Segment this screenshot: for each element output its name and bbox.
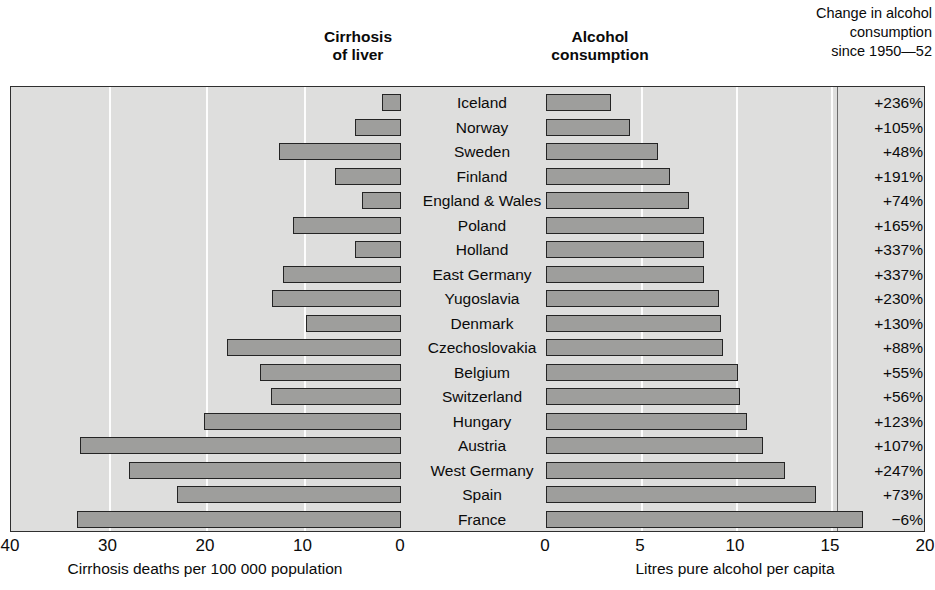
country-label: Hungary — [409, 410, 555, 435]
tick-label-right-15: 15 — [810, 536, 850, 556]
bar-cirrhosis — [306, 315, 401, 332]
bar-alcohol — [546, 168, 670, 185]
country-label: West Germany — [409, 459, 555, 484]
tick-label-left-30: 30 — [88, 536, 128, 556]
change-percent-label: +123% — [801, 410, 923, 435]
country-label: Iceland — [409, 91, 555, 116]
tick-label-right-0: 0 — [525, 536, 565, 556]
bar-cirrhosis — [177, 486, 401, 503]
chart-row: Austria+107% — [11, 434, 924, 459]
change-percent-label: +107% — [801, 434, 923, 459]
chart-row: Yugoslavia+230% — [11, 287, 924, 312]
country-label: Switzerland — [409, 385, 555, 410]
bar-alcohol — [546, 437, 763, 454]
change-percent-label: +73% — [801, 483, 923, 508]
tick-label-right-10: 10 — [715, 536, 755, 556]
bar-cirrhosis — [283, 266, 401, 283]
bar-cirrhosis — [335, 168, 401, 185]
country-label: Holland — [409, 238, 555, 263]
chart-row: Spain+73% — [11, 483, 924, 508]
bar-alcohol — [546, 388, 740, 405]
column-header-cirrhosis: Cirrhosis of liver — [278, 28, 438, 64]
country-label: Denmark — [409, 312, 555, 337]
bar-cirrhosis — [279, 143, 401, 160]
country-label: Sweden — [409, 140, 555, 165]
change-percent-label: +337% — [801, 263, 923, 288]
axis-title-right: Litres pure alcohol per capita — [545, 560, 925, 578]
change-percent-label: +105% — [801, 116, 923, 141]
country-label: Norway — [409, 116, 555, 141]
chart-row: England & Wales+74% — [11, 189, 924, 214]
bar-cirrhosis — [260, 364, 401, 381]
change-percent-label: +56% — [801, 385, 923, 410]
country-label: East Germany — [409, 263, 555, 288]
tick-label-left-20: 20 — [185, 536, 225, 556]
country-label: Spain — [409, 483, 555, 508]
country-label: Poland — [409, 214, 555, 239]
change-percent-label: +191% — [801, 165, 923, 190]
chart-row: East Germany+337% — [11, 263, 924, 288]
chart-row: Czechoslovakia+88% — [11, 336, 924, 361]
country-label: Austria — [409, 434, 555, 459]
chart-row: Belgium+55% — [11, 361, 924, 386]
chart-row: Iceland+236% — [11, 91, 924, 116]
change-percent-label: +74% — [801, 189, 923, 214]
column-header-alcohol: Alcohol consumption — [520, 28, 680, 64]
chart-row: Hungary+123% — [11, 410, 924, 435]
bar-cirrhosis — [227, 339, 401, 356]
bar-cirrhosis — [293, 217, 401, 234]
chart-row: Finland+191% — [11, 165, 924, 190]
bar-alcohol — [546, 217, 704, 234]
tick-label-left-0: 0 — [380, 536, 420, 556]
chart-row: Holland+337% — [11, 238, 924, 263]
bar-cirrhosis — [129, 462, 401, 479]
change-percent-label: +165% — [801, 214, 923, 239]
tick-label-left-10: 10 — [283, 536, 323, 556]
bar-cirrhosis — [382, 94, 402, 111]
chart-row: France−6% — [11, 508, 924, 533]
bar-alcohol — [546, 413, 747, 430]
bar-alcohol — [546, 119, 630, 136]
chart-row: Denmark+130% — [11, 312, 924, 337]
change-percent-label: +247% — [801, 459, 923, 484]
bar-alcohol — [546, 339, 723, 356]
bar-alcohol — [546, 94, 611, 111]
bar-alcohol — [546, 143, 658, 160]
country-label: England & Wales — [409, 189, 555, 214]
bar-alcohol — [546, 486, 816, 503]
tick-label-right-5: 5 — [620, 536, 660, 556]
column-header-change: Change in alcohol consumption since 1950… — [740, 4, 932, 61]
change-percent-label: +55% — [801, 361, 923, 386]
change-percent-label: +130% — [801, 312, 923, 337]
change-percent-label: −6% — [801, 508, 923, 533]
bar-alcohol — [546, 241, 704, 258]
tick-label-left-40: 40 — [0, 536, 30, 556]
chart-row: Norway+105% — [11, 116, 924, 141]
country-label: Yugoslavia — [409, 287, 555, 312]
country-label: Belgium — [409, 361, 555, 386]
bar-alcohol — [546, 192, 689, 209]
plot-area: Iceland+236%Norway+105%Sweden+48%Finland… — [10, 86, 925, 532]
change-percent-label: +337% — [801, 238, 923, 263]
change-percent-label: +236% — [801, 91, 923, 116]
change-percent-label: +88% — [801, 336, 923, 361]
chart-row: Sweden+48% — [11, 140, 924, 165]
bar-cirrhosis — [77, 511, 401, 528]
bar-alcohol — [546, 290, 719, 307]
bar-cirrhosis — [355, 119, 401, 136]
country-label: Finland — [409, 165, 555, 190]
bar-cirrhosis — [272, 290, 401, 307]
bar-alcohol — [546, 462, 785, 479]
chart-row: Poland+165% — [11, 214, 924, 239]
country-label: France — [409, 508, 555, 533]
bar-cirrhosis — [271, 388, 401, 405]
change-percent-label: +48% — [801, 140, 923, 165]
country-label: Czechoslovakia — [409, 336, 555, 361]
bar-alcohol — [546, 266, 704, 283]
bar-alcohol — [546, 364, 738, 381]
chart-root: Cirrhosis of liver Alcohol consumption C… — [0, 0, 935, 590]
chart-row: West Germany+247% — [11, 459, 924, 484]
change-percent-label: +230% — [801, 287, 923, 312]
tick-label-right-20: 20 — [905, 536, 935, 556]
bar-cirrhosis — [362, 192, 401, 209]
